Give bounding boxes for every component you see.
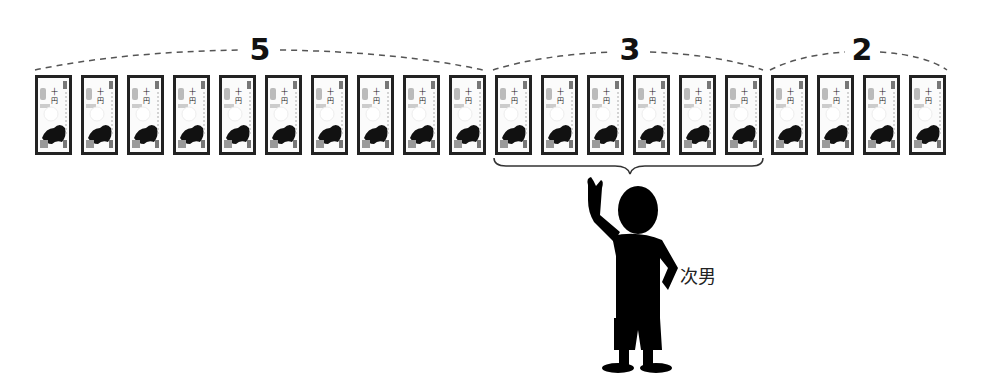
- ten-thousand-yen-bill-icon: 十 円: [909, 75, 946, 155]
- svg-text:円: 円: [925, 97, 932, 105]
- svg-text:円: 円: [465, 97, 472, 105]
- group-label-3: 3: [620, 35, 641, 65]
- ten-thousand-yen-bill-icon: 十 円: [771, 75, 808, 155]
- ten-thousand-yen-bill-icon: 十 円: [817, 75, 854, 155]
- svg-text:十: 十: [741, 87, 748, 96]
- svg-text:円: 円: [97, 97, 104, 105]
- ten-thousand-yen-bill-icon: 十 円: [127, 75, 164, 155]
- group-arc-2-left: [770, 52, 845, 70]
- svg-text:円: 円: [235, 97, 242, 105]
- svg-text:円: 円: [511, 97, 518, 105]
- ten-thousand-yen-bill-icon: 十 円: [81, 75, 118, 155]
- person-silhouette-icon: [587, 177, 678, 373]
- ten-thousand-yen-bill-icon: 十 円: [357, 75, 394, 155]
- ten-thousand-yen-bill-icon: 十 円: [403, 75, 440, 155]
- svg-text:十: 十: [373, 87, 380, 96]
- svg-text:円: 円: [879, 97, 886, 105]
- svg-text:十: 十: [327, 87, 334, 96]
- group-arcs: [0, 0, 991, 388]
- ten-thousand-yen-bill-icon: 十 円: [633, 75, 670, 155]
- group-arc-2-right: [880, 52, 947, 70]
- ten-thousand-yen-bill-icon: 十 円: [173, 75, 210, 155]
- svg-text:円: 円: [51, 97, 58, 105]
- svg-text:十: 十: [419, 87, 426, 96]
- svg-text:円: 円: [695, 97, 702, 105]
- group-arc-5-right: [280, 50, 483, 70]
- group-arc-5-left: [35, 50, 240, 70]
- svg-text:十: 十: [189, 87, 196, 96]
- svg-text:十: 十: [557, 87, 564, 96]
- ten-thousand-yen-bill-icon: 十 円: [311, 75, 348, 155]
- svg-text:円: 円: [189, 97, 196, 105]
- group-label-2: 2: [852, 35, 873, 65]
- ten-thousand-yen-bill-icon: 十 円: [449, 75, 486, 155]
- group-arc-3-left: [493, 52, 612, 70]
- person-label: 次男: [680, 262, 716, 288]
- svg-text:十: 十: [695, 87, 702, 96]
- svg-text:円: 円: [557, 97, 564, 105]
- svg-text:十: 十: [833, 87, 840, 96]
- svg-text:十: 十: [649, 87, 656, 96]
- ten-thousand-yen-bill-icon: 十 円: [587, 75, 624, 155]
- svg-text:十: 十: [281, 87, 288, 96]
- svg-text:十: 十: [603, 87, 610, 96]
- group-arc-3-right: [650, 52, 763, 70]
- ten-thousand-yen-bill-icon: 十 円: [541, 75, 578, 155]
- svg-text:円: 円: [419, 97, 426, 105]
- svg-text:十: 十: [51, 87, 58, 96]
- svg-text:円: 円: [143, 97, 150, 105]
- group-label-5: 5: [250, 35, 271, 65]
- svg-text:十: 十: [925, 87, 932, 96]
- svg-text:十: 十: [235, 87, 242, 96]
- svg-text:円: 円: [787, 97, 794, 105]
- svg-text:円: 円: [649, 97, 656, 105]
- svg-text:円: 円: [741, 97, 748, 105]
- ten-thousand-yen-bill-icon: 十 円: [495, 75, 532, 155]
- svg-text:円: 円: [327, 97, 334, 105]
- svg-text:円: 円: [373, 97, 380, 105]
- svg-text:十: 十: [465, 87, 472, 96]
- curly-brace: [494, 158, 763, 174]
- svg-text:十: 十: [97, 87, 104, 96]
- ten-thousand-yen-bill-icon: 十 円: [219, 75, 256, 155]
- ten-thousand-yen-bill-icon: 十 円: [265, 75, 302, 155]
- money-split-diagram: 5 3 2 十 円 十 円: [0, 0, 991, 388]
- svg-text:円: 円: [833, 97, 840, 105]
- ten-thousand-yen-bill-icon: 十 円: [679, 75, 716, 155]
- ten-thousand-yen-bill-icon: 十 円: [725, 75, 762, 155]
- ten-thousand-yen-bill-icon: 十 円: [35, 75, 72, 155]
- svg-text:十: 十: [879, 87, 886, 96]
- svg-text:十: 十: [143, 87, 150, 96]
- svg-text:円: 円: [603, 97, 610, 105]
- svg-text:円: 円: [281, 97, 288, 105]
- ten-thousand-yen-bill-icon: 十 円: [863, 75, 900, 155]
- svg-text:十: 十: [787, 87, 794, 96]
- svg-text:十: 十: [511, 87, 518, 96]
